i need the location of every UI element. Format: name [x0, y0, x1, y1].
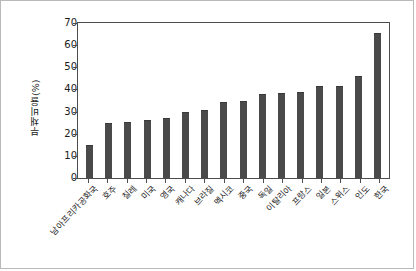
x-axis-tick-mark: [379, 179, 380, 183]
bar-slot: [291, 23, 310, 178]
bar[interactable]: [316, 86, 323, 178]
plot-area: [77, 22, 390, 179]
x-axis-tick-mark: [165, 179, 166, 183]
bar-slot: [157, 23, 176, 178]
x-axis-tick-mark: [263, 179, 264, 183]
bar-slot: [176, 23, 195, 178]
x-axis-tick-mark: [224, 179, 225, 183]
bar[interactable]: [374, 33, 381, 178]
x-axis-tick-labels: 남아프리카공화국호주칠레미국영국캐나다브라질멕시코중국독일이탈리아프랑스일본스위…: [77, 184, 390, 264]
x-axis-tick-mark: [146, 179, 147, 183]
bar-slot: [138, 23, 157, 178]
x-axis-tick-mark: [204, 179, 205, 183]
x-axis-tick-mark: [302, 179, 303, 183]
bar[interactable]: [297, 92, 304, 178]
bar[interactable]: [163, 118, 170, 178]
bar[interactable]: [105, 123, 112, 178]
bar-slot: [99, 23, 118, 178]
bar[interactable]: [220, 102, 227, 178]
x-axis-tick-mark: [282, 179, 283, 183]
bar-slot: [234, 23, 253, 178]
x-axis-tick-mark: [88, 179, 89, 183]
bar[interactable]: [278, 93, 285, 178]
bar[interactable]: [124, 122, 131, 178]
bar-slot: [80, 23, 99, 178]
bar-slot: [329, 23, 348, 178]
x-axis-tick-mark: [107, 179, 108, 183]
bar-slot: [195, 23, 214, 178]
bar[interactable]: [182, 112, 189, 178]
bar-slot: [253, 23, 272, 178]
bar[interactable]: [144, 120, 151, 178]
x-axis-tick-mark: [340, 179, 341, 183]
chart-figure: 부채비율(%) 010203040506070 남아프리카공화국호주칠레미국영국…: [0, 0, 414, 269]
bar[interactable]: [259, 94, 266, 178]
bar[interactable]: [336, 86, 343, 178]
y-axis-title: 부채비율(%): [27, 53, 45, 163]
bar-slot: [118, 23, 137, 178]
bar-slot: [349, 23, 368, 178]
bar-slot: [368, 23, 387, 178]
bar[interactable]: [355, 76, 362, 178]
bar-slot: [272, 23, 291, 178]
x-axis-tick-mark: [243, 179, 244, 183]
bar-slot: [214, 23, 233, 178]
bar-series: [78, 23, 389, 178]
x-axis-tick-mark: [185, 179, 186, 183]
x-axis-tick-mark: [127, 179, 128, 183]
bar[interactable]: [86, 145, 93, 178]
bar-slot: [310, 23, 329, 178]
x-axis-tick-mark: [321, 179, 322, 183]
bar[interactable]: [201, 110, 208, 178]
x-axis-tick-mark: [360, 179, 361, 183]
bar[interactable]: [240, 101, 247, 179]
